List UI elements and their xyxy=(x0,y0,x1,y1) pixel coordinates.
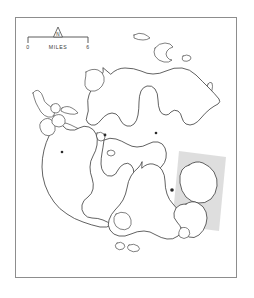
map-frame: N 0 MILES 6 xyxy=(15,17,237,278)
coastline-north-main xyxy=(86,68,220,126)
west-large-island[interactable] xyxy=(40,115,112,228)
island-south-dot-b xyxy=(128,244,140,252)
scale-left-label: 0 xyxy=(26,44,29,50)
scale-unit-label: MILES xyxy=(49,44,67,50)
place-marker-central[interactable] xyxy=(104,134,107,137)
island-harbour-a xyxy=(107,150,115,156)
place-marker-east[interactable] xyxy=(170,188,174,192)
island-east-tail xyxy=(179,227,190,238)
place-marker-west[interactable] xyxy=(61,151,64,154)
map-figure: N 0 MILES 6 xyxy=(0,0,254,298)
scale-right-label: 6 xyxy=(86,44,89,50)
island-south-dot-a xyxy=(115,242,125,250)
south-peninsula[interactable] xyxy=(108,162,183,252)
coast-west-notch xyxy=(52,115,66,128)
map-canvas[interactable]: N 0 MILES 6 xyxy=(16,18,237,278)
island-nw-small xyxy=(61,107,78,115)
island-nw-long xyxy=(33,90,55,117)
scale-bar-group[interactable]: N 0 MILES 6 xyxy=(26,27,89,50)
island-north-a xyxy=(134,33,150,40)
north-small-islands[interactable] xyxy=(134,33,191,62)
island-nw-mid xyxy=(51,104,61,114)
place-marker-north[interactable] xyxy=(155,132,158,135)
island-north-b xyxy=(154,43,173,62)
island-north-c xyxy=(182,55,191,61)
north-main-island[interactable] xyxy=(85,68,220,126)
north-arrow-label: N xyxy=(56,32,59,37)
